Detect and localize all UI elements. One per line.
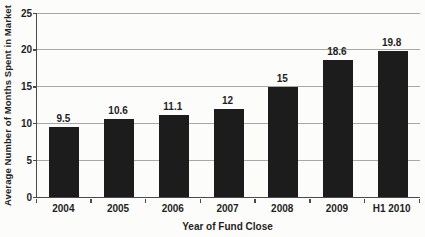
x-tick-mark — [36, 199, 38, 203]
bar-value-label: 9.5 — [38, 113, 88, 124]
x-tick-label: 2005 — [88, 203, 148, 214]
x-tick-label: 2004 — [33, 203, 93, 214]
x-tick-mark — [254, 199, 256, 203]
x-axis-title: Year of Fund Close — [36, 221, 419, 232]
y-tick-mark — [33, 49, 37, 51]
bar-value-label: 18.6 — [312, 46, 362, 57]
y-tick-mark — [33, 13, 37, 15]
gridline-y-15 — [37, 86, 420, 87]
bar-2006 — [159, 115, 189, 197]
y-tick-mark — [33, 86, 37, 88]
x-tick-label: H1 2010 — [362, 203, 422, 214]
bar-2004 — [49, 127, 79, 197]
bar-chart: Average Number of Months Spent in Market… — [0, 0, 425, 237]
bar-2008 — [268, 87, 298, 197]
y-tick-mark — [33, 123, 37, 125]
y-tick-mark — [33, 160, 37, 162]
y-tick-label: 0 — [6, 192, 32, 203]
bar-value-label: 10.6 — [93, 105, 143, 116]
x-tick-mark — [364, 199, 366, 203]
bar-value-label: 15 — [257, 73, 307, 84]
x-tick-label: 2008 — [252, 203, 312, 214]
y-tick-label: 15 — [6, 81, 32, 92]
x-tick-mark — [309, 199, 311, 203]
bar-value-label: 19.8 — [367, 37, 417, 48]
gridline-y-25 — [37, 13, 420, 14]
bar-value-label: 12 — [203, 95, 253, 106]
bar-h1-2010 — [378, 51, 408, 197]
y-tick-label: 25 — [6, 8, 32, 19]
bar-2007 — [214, 109, 244, 197]
x-tick-mark — [419, 199, 421, 203]
x-tick-mark — [200, 199, 202, 203]
bar-2009 — [323, 60, 353, 197]
x-tick-label: 2009 — [307, 203, 367, 214]
y-tick-label: 20 — [6, 44, 32, 55]
gridline-y-20 — [37, 49, 420, 50]
x-tick-mark — [90, 199, 92, 203]
y-tick-label: 5 — [6, 155, 32, 166]
y-axis-title: Average Number of Months Spent in Market — [2, 1, 15, 211]
bar-2005 — [104, 119, 134, 197]
x-tick-label: 2007 — [198, 203, 258, 214]
bar-value-label: 11.1 — [148, 101, 198, 112]
x-tick-mark — [145, 199, 147, 203]
y-tick-label: 10 — [6, 118, 32, 129]
x-tick-label: 2006 — [143, 203, 203, 214]
